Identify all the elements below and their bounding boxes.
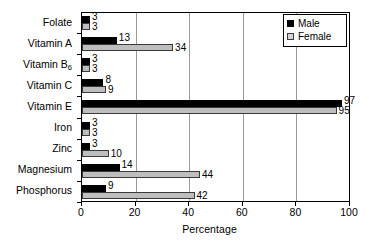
- bar-male[interactable]: [82, 37, 117, 44]
- x-axis-tick-label: 100: [340, 206, 358, 218]
- bar-value-label-male: 9: [108, 181, 114, 191]
- bar-group: 310: [82, 140, 349, 161]
- bar-group: 89: [82, 76, 349, 97]
- bar-female[interactable]: [82, 192, 195, 199]
- bar-female[interactable]: [82, 129, 90, 136]
- x-axis-tick-label: 0: [78, 206, 84, 218]
- bar-chart: PhosphorusMagnesiumZincIronVitamin EVita…: [0, 0, 369, 245]
- bar-group: 942: [82, 182, 349, 203]
- bar-value-label-male: 13: [119, 33, 130, 43]
- bar-value-label-male: 3: [92, 139, 98, 149]
- y-axis-label-vitamin-b6: Vitamin B6: [23, 59, 72, 71]
- bar-value-label-female: 44: [202, 170, 213, 180]
- bar-value-label-female: 3: [92, 64, 98, 74]
- x-axis-title-text: Percentage: [132, 223, 237, 235]
- legend-label-male: Male: [298, 18, 320, 29]
- bar-female[interactable]: [82, 171, 200, 178]
- y-axis-label-vitamin-c: Vitamin C: [27, 80, 72, 91]
- bar-male[interactable]: [82, 164, 120, 171]
- y-axis-label-iron: Iron: [54, 122, 72, 133]
- bar-group: 33: [82, 55, 349, 76]
- bar-value-label-female: 3: [92, 22, 98, 32]
- bar-female[interactable]: [82, 86, 106, 93]
- x-axis-tick-label: 20: [129, 206, 141, 218]
- y-axis-label-magnesium: Magnesium: [18, 164, 72, 175]
- bar-value-label-female: 42: [197, 191, 208, 201]
- bar-group: 9795: [82, 97, 349, 118]
- bar-female[interactable]: [82, 44, 173, 51]
- legend: Male Female: [283, 14, 347, 47]
- y-axis-label-zinc: Zinc: [52, 143, 72, 154]
- bar-male[interactable]: [82, 185, 106, 192]
- y-axis-label-vitamin-e: Vitamin E: [27, 101, 72, 112]
- legend-label-female: Female: [298, 31, 331, 42]
- y-axis-label-vitamin-a: Vitamin A: [28, 38, 72, 49]
- legend-item-male[interactable]: Male: [287, 17, 343, 30]
- light-gray-swatch-icon: [287, 33, 294, 40]
- bar-value-label-female: 34: [175, 43, 186, 53]
- legend-item-female[interactable]: Female: [287, 30, 343, 43]
- y-axis-label-folate: Folate: [43, 17, 72, 28]
- x-axis-title: Percentage: [0, 223, 369, 235]
- bar-female[interactable]: [82, 107, 337, 114]
- bar-female[interactable]: [82, 150, 109, 157]
- bar-male[interactable]: [82, 122, 90, 129]
- bar-value-label-female: 10: [111, 149, 122, 159]
- solid-black-swatch-icon: [287, 20, 294, 27]
- bar-value-label-female: 95: [339, 106, 350, 116]
- x-axis-tick-label: 80: [290, 206, 302, 218]
- bar-male[interactable]: [82, 16, 90, 23]
- bar-male[interactable]: [82, 58, 90, 65]
- bar-group: 1444: [82, 161, 349, 182]
- bar-value-label-female: 9: [108, 85, 114, 95]
- y-axis-category-labels: PhosphorusMagnesiumZincIronVitamin EVita…: [0, 12, 76, 202]
- bar-value-label-male: 14: [122, 160, 133, 170]
- bar-female[interactable]: [82, 23, 90, 30]
- x-axis-tick-label: 40: [182, 206, 194, 218]
- bar-group: 33: [82, 119, 349, 140]
- bar-value-label-female: 3: [92, 128, 98, 138]
- x-axis-tick-label: 60: [236, 206, 248, 218]
- bar-male[interactable]: [82, 100, 342, 107]
- bar-male[interactable]: [82, 79, 103, 86]
- bar-female[interactable]: [82, 65, 90, 72]
- y-axis-label-phosphorus: Phosphorus: [16, 185, 72, 196]
- bar-male[interactable]: [82, 143, 90, 150]
